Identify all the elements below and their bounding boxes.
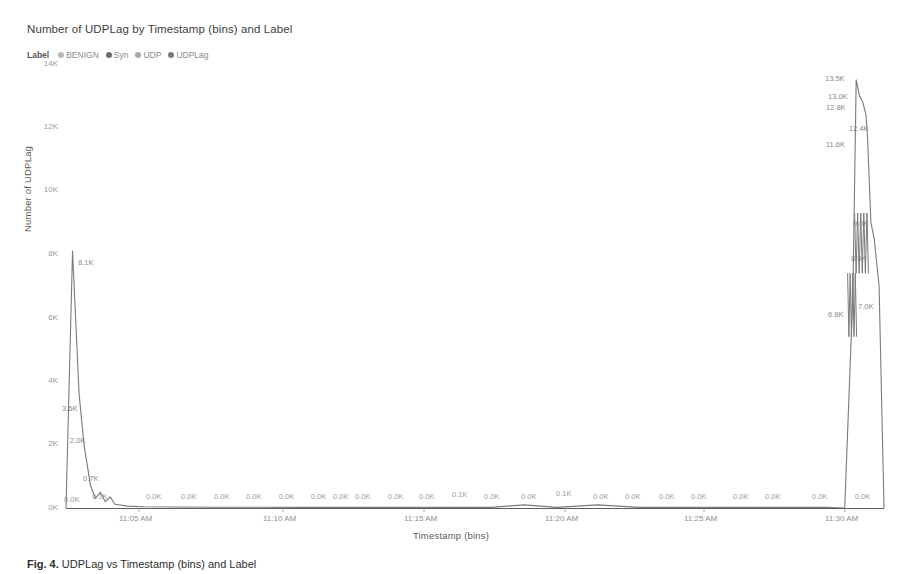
series-oscillation-lower [848,273,857,336]
series-line-udplag [66,80,884,508]
series-oscillation-upper [855,213,869,273]
figure-container: Number of UDPLag by Timestamp (bins) and… [0,0,902,574]
axis-tick-marks [139,509,845,513]
chart-plot [0,0,902,574]
caption-lead: Fig. 4. [27,558,59,570]
figure-caption: Fig. 4. UDPLag vs Timestamp (bins) and L… [27,558,256,570]
caption-text: UDPLag vs Timestamp (bins) and Label [59,558,256,570]
